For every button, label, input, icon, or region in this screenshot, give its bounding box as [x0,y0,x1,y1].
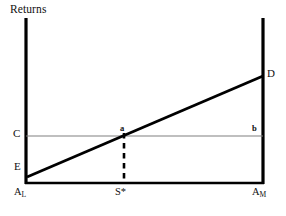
x-axis-label-a-m-base: A [252,186,260,197]
x-axis-label-s-star: S* [115,187,126,198]
label-point-b: b [252,124,257,133]
x-axis-label-a-m-subscript: M [260,190,267,199]
x-axis-label-a-m: AM [252,187,266,198]
x-axis-label-a-l: AL [14,187,26,198]
label-point-a: a [120,124,124,133]
label-d: D [267,68,275,79]
plot-canvas [0,0,286,216]
y-axis-title: Returns [10,4,46,16]
label-e: E [14,161,21,172]
x-axis-label-a-l-subscript: L [22,190,27,199]
returns-diagram-figure: Returns C E D a b AL S* AM [0,0,286,216]
curve-line-ED [27,76,263,177]
x-axis-label-a-l-base: A [14,186,22,197]
label-c: C [13,128,20,139]
